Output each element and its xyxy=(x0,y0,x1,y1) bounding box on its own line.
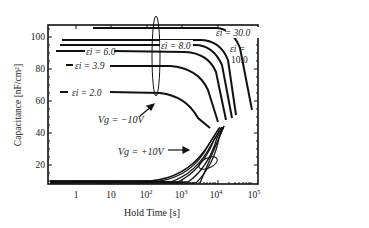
svg-text:80: 80 xyxy=(36,64,46,74)
svg-text:104: 104 xyxy=(210,188,224,200)
x-axis-label: Hold Time [s] xyxy=(124,207,180,218)
svg-text:10: 10 xyxy=(106,190,116,200)
svg-text:60: 60 xyxy=(36,96,46,106)
label-eps-8: εi = 8.0 xyxy=(161,41,191,51)
label-eps-10-a: εi = xyxy=(230,44,245,54)
label-eps-2: εi = 2.0 xyxy=(72,88,102,98)
capacitance-hold-time-chart: 100 80 60 40 20 1 10 102 103 104 105 Hol… xyxy=(0,0,369,228)
svg-text:105: 105 xyxy=(248,188,261,200)
svg-text:20: 20 xyxy=(36,160,46,170)
svg-text:40: 40 xyxy=(36,128,46,138)
svg-text:102: 102 xyxy=(140,188,153,200)
y-axis-label: Capacitance [nF/cm²] xyxy=(13,64,23,146)
label-eps-10-b: 10.0 xyxy=(231,55,248,65)
label-eps-6: εi = 6.0 xyxy=(86,47,116,57)
label-vg-negative: Vg = −10V xyxy=(98,114,146,125)
x-tick-labels: 1 10 102 103 104 105 xyxy=(74,188,261,200)
y-tick-labels: 100 80 60 40 20 xyxy=(31,32,46,170)
svg-text:100: 100 xyxy=(31,32,46,42)
label-eps-39: εi = 3.9 xyxy=(75,61,105,71)
label-eps-30: εi = 30.0 xyxy=(216,28,250,38)
svg-text:103: 103 xyxy=(175,188,188,200)
label-vg-positive: Vg = +10V xyxy=(118,146,166,157)
vg-negative-curves xyxy=(56,28,252,128)
svg-text:1: 1 xyxy=(74,190,79,200)
